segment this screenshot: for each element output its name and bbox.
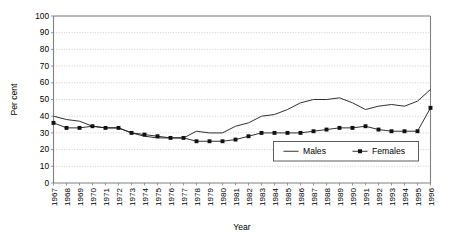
xtick-label-1995: 1995 (414, 188, 423, 207)
xtick-label-1994: 1994 (401, 188, 410, 207)
datapoint-females-1987 (312, 129, 316, 133)
datapoint-females-1988 (325, 128, 329, 132)
legend-label-males: Males (303, 146, 326, 156)
datapoint-females-1985 (286, 131, 290, 135)
datapoint-females-1980 (221, 139, 225, 143)
xtick-label-1992: 1992 (375, 188, 384, 207)
xtick-label-1985: 1985 (284, 188, 293, 207)
datapoint-females-1979 (208, 139, 212, 143)
datapoint-females-1993 (390, 129, 394, 133)
datapoint-females-1983 (260, 131, 264, 135)
ytick-label-20: 20 (40, 144, 50, 154)
xtick-label-1984: 1984 (271, 188, 280, 207)
xtick-label-1996: 1996 (427, 188, 436, 207)
xtick-label-1970: 1970 (89, 188, 98, 207)
xtick-label-1980: 1980 (219, 188, 228, 207)
xtick-label-1983: 1983 (258, 188, 267, 207)
datapoint-females-1990 (351, 126, 355, 130)
ytick-label-80: 80 (40, 44, 50, 54)
y-axis-title: Per cent (9, 83, 19, 116)
datapoint-females-1991 (364, 124, 368, 128)
datapoint-females-1971 (104, 126, 108, 130)
ytick-label-70: 70 (40, 61, 50, 71)
datapoint-females-1981 (234, 138, 238, 142)
xtick-label-1973: 1973 (128, 188, 137, 207)
ytick-label-0: 0 (44, 178, 49, 188)
ytick-label-50: 50 (40, 94, 50, 104)
xtick-label-1979: 1979 (206, 188, 215, 207)
xtick-label-1971: 1971 (102, 188, 111, 207)
datapoint-females-1970 (91, 124, 95, 128)
datapoint-females-1974 (143, 133, 147, 137)
datapoint-females-1995 (416, 129, 420, 133)
datapoint-females-1994 (403, 129, 407, 133)
datapoint-females-1996 (429, 106, 433, 110)
ytick-label-100: 100 (35, 11, 49, 21)
datapoint-females-1992 (377, 128, 381, 132)
ytick-label-10: 10 (40, 161, 50, 171)
xtick-label-1991: 1991 (362, 188, 371, 207)
datapoint-females-1968 (65, 126, 69, 130)
xtick-label-1982: 1982 (245, 188, 254, 207)
datapoint-females-1977 (182, 136, 186, 140)
xtick-label-1993: 1993 (388, 188, 397, 207)
ytick-label-60: 60 (40, 77, 50, 87)
xtick-label-1972: 1972 (115, 188, 124, 207)
xtick-label-1978: 1978 (193, 188, 202, 207)
ytick-label-90: 90 (40, 27, 50, 37)
xtick-label-1986: 1986 (297, 188, 306, 207)
xtick-label-1990: 1990 (349, 188, 358, 207)
datapoint-females-1982 (247, 134, 251, 138)
xtick-label-1969: 1969 (76, 188, 85, 207)
chart-canvas: 0102030405060708090100Per cent1967196819… (0, 0, 455, 237)
xtick-label-1967: 1967 (50, 188, 59, 207)
plot-area: 0102030405060708090100Per cent1967196819… (0, 0, 455, 237)
datapoint-females-1967 (52, 121, 56, 125)
legend-label-females: Females (372, 146, 405, 156)
ytick-label-40: 40 (40, 111, 50, 121)
xtick-label-1968: 1968 (63, 188, 72, 207)
xtick-label-1981: 1981 (232, 188, 241, 207)
x-axis-title: Year (233, 222, 251, 232)
datapoint-females-1978 (195, 139, 199, 143)
datapoint-females-1969 (78, 126, 82, 130)
datapoint-females-1989 (338, 126, 342, 130)
xtick-label-1988: 1988 (323, 188, 332, 207)
xtick-label-1987: 1987 (310, 188, 319, 207)
datapoint-females-1975 (156, 134, 160, 138)
datapoint-females-1972 (117, 126, 121, 130)
xtick-label-1975: 1975 (154, 188, 163, 207)
line-chart: 0102030405060708090100Per cent1967196819… (0, 0, 455, 237)
datapoint-females-1976 (169, 136, 173, 140)
xtick-label-1976: 1976 (167, 188, 176, 207)
ytick-label-30: 30 (40, 128, 50, 138)
xtick-label-1974: 1974 (141, 188, 150, 207)
datapoint-females-1984 (273, 131, 277, 135)
xtick-label-1989: 1989 (336, 188, 345, 207)
datapoint-females-1973 (130, 131, 134, 135)
xtick-label-1977: 1977 (180, 188, 189, 207)
datapoint-females-1986 (299, 131, 303, 135)
legend-marker-females (358, 149, 362, 153)
